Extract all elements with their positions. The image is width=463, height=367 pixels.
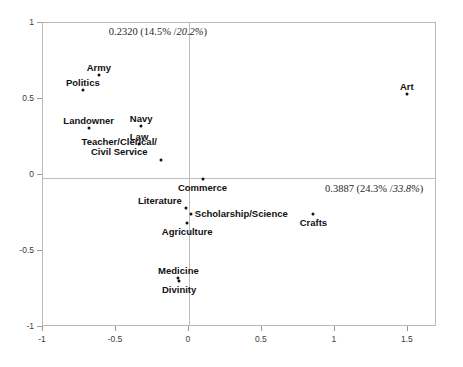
data-point xyxy=(189,213,192,216)
y-axis-tick-label: -1 xyxy=(8,321,34,331)
data-point xyxy=(178,280,181,283)
x-axis-tick-label: 0.5 xyxy=(255,334,267,344)
data-point-label: Divinity xyxy=(162,285,196,296)
y-axis-tick-label: 1 xyxy=(8,17,34,27)
x-axis-tick-label: 1 xyxy=(331,334,336,344)
data-point-label: Politics xyxy=(66,78,100,89)
y-axis-tick xyxy=(37,174,42,175)
data-point xyxy=(140,125,143,128)
data-point-label: Agriculture xyxy=(162,227,213,238)
data-point xyxy=(184,207,187,210)
data-point-label: Teacher/Clerical/Civil Service xyxy=(82,137,157,158)
y-axis-tick xyxy=(37,326,42,327)
x-axis-tick-label: 0 xyxy=(186,334,191,344)
y-axis-tick-label: 0.5 xyxy=(8,93,34,103)
horizontal-axis-annotation: 0.3887 (24.3% /33.8%) xyxy=(325,183,423,194)
data-point-label: Art xyxy=(400,82,414,93)
data-point-label: Crafts xyxy=(300,218,327,229)
x-axis-tick xyxy=(334,326,335,331)
y-axis-tick xyxy=(37,22,42,23)
data-point xyxy=(312,213,315,216)
correspondence-analysis-scatter-plot: -1-0.500.511.510.50-0.5-1 ArmyPoliticsAr… xyxy=(0,0,463,367)
x-axis-tick xyxy=(407,326,408,331)
y-axis-tick xyxy=(37,98,42,99)
data-point xyxy=(87,127,90,130)
x-axis-tick xyxy=(261,326,262,331)
vertical-axis-annotation: 0.2320 (14.5% /20.2%) xyxy=(109,26,207,37)
data-point-label: Literature xyxy=(138,196,182,207)
x-axis-tick-label: -0.5 xyxy=(108,334,123,344)
x-axis-tick xyxy=(115,326,116,331)
data-point-label: Commerce xyxy=(178,183,227,194)
data-point xyxy=(201,178,204,181)
data-point-label: Navy xyxy=(130,114,153,125)
data-point xyxy=(405,93,408,96)
data-point-label: Army xyxy=(87,63,111,74)
y-axis-tick-label: 0 xyxy=(8,169,34,179)
x-axis-tick xyxy=(42,326,43,331)
y-axis-tick xyxy=(37,250,42,251)
vertical-zero-axis xyxy=(189,22,190,326)
data-point-label: Scholarship/Science xyxy=(195,209,288,220)
data-point-label: Medicine xyxy=(158,266,199,277)
x-axis-tick-label: -1 xyxy=(38,334,46,344)
x-axis-tick-label: 1.5 xyxy=(401,334,413,344)
data-point xyxy=(81,88,84,91)
data-point-label: Landowner xyxy=(63,116,114,127)
data-point xyxy=(186,222,189,225)
data-point xyxy=(159,158,162,161)
horizontal-zero-axis xyxy=(42,178,436,179)
x-axis-tick xyxy=(188,326,189,331)
y-axis-tick-label: -0.5 xyxy=(8,245,34,255)
